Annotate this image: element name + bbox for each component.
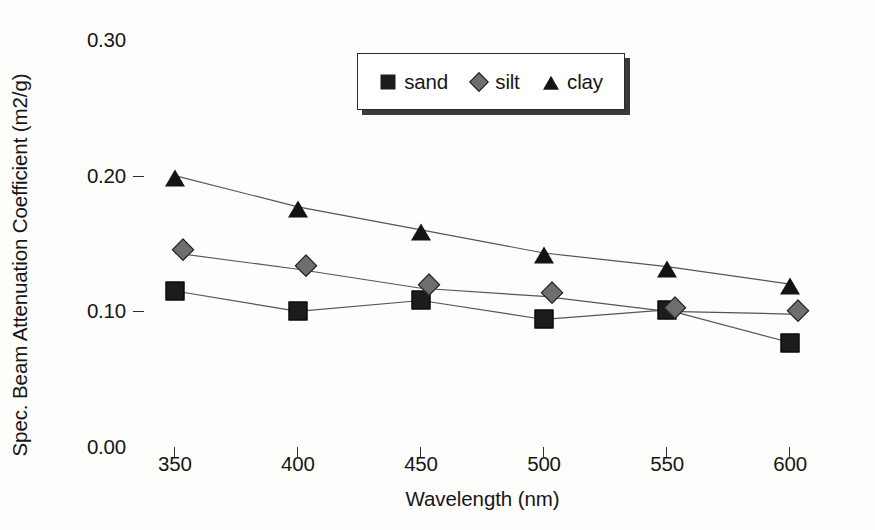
data-point-sand	[165, 281, 184, 300]
diamond-marker-icon	[470, 73, 488, 91]
data-point-silt	[295, 255, 318, 278]
data-point-clay	[165, 169, 185, 186]
legend-label: silt	[495, 70, 519, 94]
x-tick-mark	[174, 447, 175, 457]
y-tick-mark	[133, 176, 144, 177]
y-tick-mark	[133, 311, 144, 312]
data-point-sand	[535, 310, 554, 329]
triangle-marker-icon	[542, 73, 560, 91]
chart-figure: Spec. Beam Attenuation Coefficient (m2/g…	[0, 0, 875, 530]
square-marker-icon	[379, 73, 397, 91]
data-point-sand	[288, 302, 307, 321]
chart-legend: sandsiltclay	[357, 53, 625, 110]
data-point-silt	[541, 282, 564, 305]
data-point-clay	[288, 200, 308, 217]
data-point-clay	[534, 246, 554, 263]
x-tick-mark	[666, 447, 667, 457]
data-point-clay	[411, 223, 431, 240]
legend-label: clay	[567, 70, 603, 94]
data-point-clay	[657, 260, 677, 277]
data-point-silt	[172, 238, 195, 261]
x-tick-mark	[297, 447, 298, 457]
legend-entry-sand[interactable]: sand	[379, 70, 448, 94]
legend-entry-clay[interactable]: clay	[542, 70, 603, 94]
data-point-clay	[780, 278, 800, 295]
legend-entry-silt[interactable]: silt	[470, 70, 519, 94]
data-point-sand	[781, 333, 800, 352]
legend-label: sand	[404, 70, 448, 94]
data-point-silt	[787, 299, 810, 322]
x-tick-mark	[543, 447, 544, 457]
x-tick-mark	[789, 447, 790, 457]
x-tick-mark	[420, 447, 421, 457]
